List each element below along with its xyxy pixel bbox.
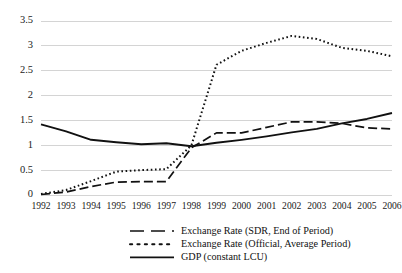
y-axis-tick-label: 1.5	[20, 114, 33, 125]
x-axis-tick-label: 1995	[107, 200, 126, 211]
y-axis-tick-label: 3	[28, 39, 33, 50]
x-axis-tick-label: 2000	[232, 200, 251, 211]
x-axis-tick-label: 2001	[257, 200, 276, 211]
x-axis-tick-label: 2004	[332, 200, 351, 211]
line-chart-figure: 00.511.522.533.5 19921993199419951996199…	[0, 0, 402, 273]
y-axis-tick-label: 0.5	[20, 164, 33, 175]
legend-label-2: Exchange Rate (Official, Average Period)	[181, 238, 351, 250]
x-axis-tick-label: 1998	[182, 200, 201, 211]
x-axis-tick-label: 1994	[82, 200, 101, 211]
x-axis-tick-label: 1992	[31, 200, 50, 211]
x-axis-tick-label: 2005	[357, 200, 376, 211]
chart-canvas: 00.511.522.533.5 19921993199419951996199…	[0, 0, 402, 273]
x-axis-tick-label: 1999	[207, 200, 226, 211]
x-axis-tick-label: 1997	[157, 200, 176, 211]
y-axis-tick-label: 2	[28, 89, 33, 100]
y-axis-tick-label: 1	[28, 139, 33, 150]
x-axis-tick-label: 1993	[56, 200, 75, 211]
x-axis-tick-labels: 1992199319941995199619971998199920002001…	[31, 200, 401, 211]
x-axis-tick-label: 2002	[282, 200, 301, 211]
x-axis-tick-label: 2006	[382, 200, 401, 211]
y-axis-tick-label: 3.5	[20, 14, 33, 25]
legend-label-1: Exchange Rate (SDR, End of Period)	[181, 225, 333, 237]
y-axis-tick-label: 2.5	[20, 64, 33, 75]
x-axis-tick-label: 2003	[307, 200, 326, 211]
y-axis-tick-label: 0	[28, 188, 33, 199]
legend-label-3: GDP (constant LCU)	[181, 251, 267, 263]
x-axis-tick-label: 1996	[132, 200, 151, 211]
